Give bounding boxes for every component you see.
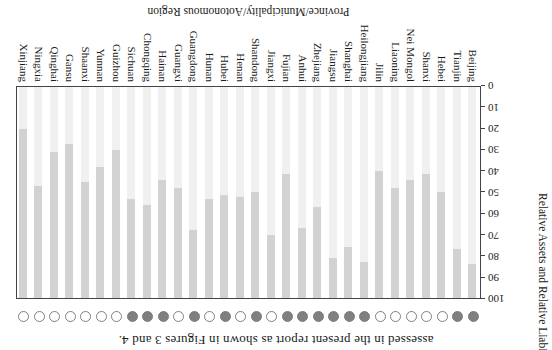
category-label-jiangxi: Jiangxi	[266, 50, 278, 82]
bar-lower-light-segment	[189, 87, 197, 230]
bar-shanxi	[422, 87, 430, 298]
bar-upper-dark-segment	[344, 247, 352, 298]
category-label-liaoning: Liaoning	[390, 42, 402, 82]
bar-upper-dark-segment	[329, 258, 337, 298]
bar-lower-light-segment	[81, 87, 89, 182]
filled-circle-shandong	[251, 311, 262, 322]
filled-circle-tianjin	[452, 311, 463, 322]
open-circle-hunan	[204, 311, 215, 322]
category-label-sichuan: Sichuan	[126, 47, 138, 82]
bar-upper-dark-segment	[313, 207, 321, 298]
category-label-heilongjiang: Heilongjiang	[359, 25, 371, 82]
bar-yunnan	[96, 87, 104, 298]
filled-circle-fujian	[282, 311, 293, 322]
category-label-shanghai: Shanghai	[343, 41, 355, 82]
x-axis-title: Province/Municipality/Aotonomous Region	[16, 6, 481, 18]
category-label-shaanxi: Shaanxi	[80, 47, 92, 82]
y-tick-label-10: 10	[488, 102, 514, 114]
bar-upper-dark-segment	[391, 188, 399, 298]
bar-anhui	[298, 87, 306, 298]
filled-circle-anhui	[297, 311, 308, 322]
filled-circle-chongqing	[142, 311, 153, 322]
bar-upper-dark-segment	[112, 150, 120, 298]
open-circle-gansu	[65, 311, 76, 322]
category-label-hebei: Hebei	[436, 56, 448, 82]
filled-circle-hubei	[220, 311, 231, 322]
bar-upper-dark-segment	[127, 199, 135, 298]
bar-upper-dark-segment	[437, 193, 445, 299]
open-circle-guangxi	[173, 311, 184, 322]
bar-chongqing	[143, 87, 151, 298]
bar-lower-light-segment	[50, 87, 58, 152]
bar-guangxi	[174, 87, 182, 298]
bar-upper-dark-segment	[298, 228, 306, 298]
category-label-qinghai: Qinghai	[49, 47, 61, 82]
bar-lower-light-segment	[19, 87, 27, 129]
category-label-anhui: Anhui	[297, 55, 309, 83]
y-tick-label-90: 90	[488, 272, 514, 284]
bar-lower-light-segment	[468, 87, 476, 264]
category-label-jiangsu: Jiangsu	[328, 49, 340, 82]
category-label-henan: Henan	[235, 53, 247, 82]
filled-circle-zhejiang	[313, 311, 324, 322]
open-circle-guizhou	[111, 311, 122, 322]
filled-circle-guangdong	[189, 311, 200, 322]
figure-caption-fragment: assessed in the present report as shown …	[0, 332, 552, 348]
bar-jiangsu	[329, 87, 337, 298]
open-circle-shanxi	[421, 311, 432, 322]
bar-lower-light-segment	[375, 87, 383, 171]
y-tick-mark-10	[481, 106, 485, 107]
bar-upper-dark-segment	[96, 167, 104, 298]
bar-lower-light-segment	[267, 87, 275, 235]
bar-upper-dark-segment	[50, 152, 58, 298]
open-circle-shaanxi	[80, 311, 91, 322]
category-label-zhejiang: Zhejiang	[312, 43, 324, 82]
bar-jiangxi	[267, 87, 275, 298]
bar-upper-dark-segment	[189, 230, 197, 298]
filled-circle-shanghai	[344, 311, 355, 322]
bar-lower-light-segment	[174, 87, 182, 188]
bar-hainan	[158, 87, 166, 298]
open-circle-ningxia	[34, 311, 45, 322]
category-label-guangdong: Guangdong	[188, 31, 200, 82]
bar-lower-light-segment	[453, 87, 461, 249]
filled-circle-hainan	[158, 311, 169, 322]
bar-upper-dark-segment	[360, 262, 368, 298]
bar-lower-light-segment	[65, 87, 73, 144]
open-circle-nei-mongol	[406, 311, 417, 322]
bar-lower-light-segment	[34, 87, 42, 186]
bar-upper-dark-segment	[174, 188, 182, 298]
category-label-xinjiang: Xinjiang	[18, 44, 30, 83]
bar-lower-light-segment	[205, 87, 213, 199]
category-label-yunnan: Yunnan	[95, 48, 107, 82]
bar-liaoning	[391, 87, 399, 298]
bar-upper-dark-segment	[205, 199, 213, 298]
category-label-hainan: Hainan	[157, 50, 169, 82]
y-tick-label-20: 20	[488, 123, 514, 135]
category-label-fujian: Fujian	[281, 54, 293, 82]
y-tick-label-30: 30	[488, 144, 514, 156]
open-circle-liaoning	[390, 311, 401, 322]
bar-upper-dark-segment	[267, 235, 275, 298]
open-circle-jiangxi	[266, 311, 277, 322]
bar-fujian	[282, 87, 290, 298]
bar-nei-mongol	[406, 87, 414, 298]
bar-lower-light-segment	[298, 87, 306, 228]
bar-lower-light-segment	[437, 87, 445, 193]
filled-circle-beijing	[468, 311, 479, 322]
bar-lower-light-segment	[282, 87, 290, 174]
bar-ningxia	[34, 87, 42, 298]
bar-upper-dark-segment	[220, 195, 228, 298]
bar-tianjin	[453, 87, 461, 298]
bar-lower-light-segment	[96, 87, 104, 167]
y-tick-mark-90	[481, 277, 485, 278]
category-label-gansu: Gansu	[64, 54, 76, 82]
category-label-jilin: Jilin	[374, 63, 386, 82]
y-tick-label-50: 50	[488, 187, 514, 199]
bar-lower-light-segment	[329, 87, 337, 258]
bar-upper-dark-segment	[282, 174, 290, 298]
filled-circle-heilongjiang	[359, 311, 370, 322]
category-label-ningxia: Ningxia	[33, 47, 45, 82]
category-label-shandong: Shandong	[250, 38, 262, 82]
y-tick-mark-60	[481, 213, 485, 214]
